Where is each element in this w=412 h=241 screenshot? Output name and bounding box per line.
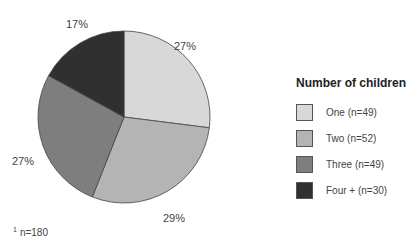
legend-label-three: Three (n=49) xyxy=(326,159,384,170)
footnote: 1n=180 xyxy=(13,226,48,238)
legend-item-two: Two (n=52) xyxy=(296,125,406,151)
legend-swatch-one xyxy=(296,104,313,121)
legend-item-four: Four + (n=30) xyxy=(296,177,406,203)
slice-label-three: 27% xyxy=(12,155,34,167)
legend-label-four: Four + (n=30) xyxy=(326,185,387,196)
legend-label-two: Two (n=52) xyxy=(326,133,376,144)
pie-slice-one xyxy=(124,31,210,128)
footnote-marker: 1 xyxy=(13,226,17,233)
legend-item-one: One (n=49) xyxy=(296,99,406,125)
slice-label-one: 27% xyxy=(174,40,196,52)
slice-label-four: 17% xyxy=(66,18,88,30)
legend-swatch-four xyxy=(296,182,313,199)
legend-swatch-two xyxy=(296,130,313,147)
legend-swatch-three xyxy=(296,156,313,173)
legend: Number of children One (n=49) Two (n=52)… xyxy=(296,76,406,203)
legend-title: Number of children xyxy=(296,76,406,90)
legend-item-three: Three (n=49) xyxy=(296,151,406,177)
footnote-text: n=180 xyxy=(20,227,48,238)
legend-label-one: One (n=49) xyxy=(326,107,377,118)
slice-label-two: 29% xyxy=(163,212,185,224)
